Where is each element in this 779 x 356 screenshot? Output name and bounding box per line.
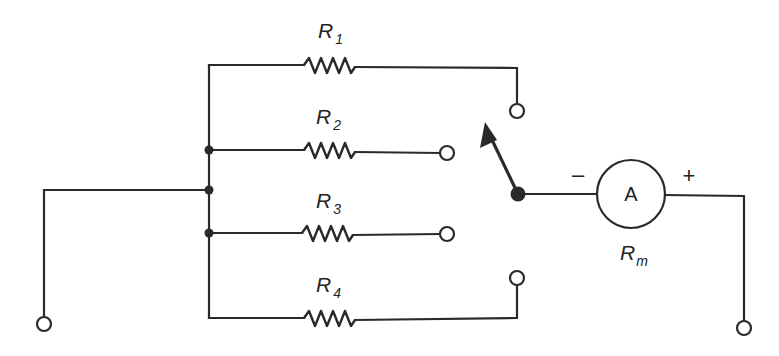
label-r1: R1	[318, 19, 343, 47]
resistor-r2-branch: R2	[209, 105, 454, 160]
resistor-r2-icon	[304, 143, 355, 158]
resistor-r1-branch: R1	[209, 19, 524, 118]
label-r4: R4	[316, 273, 341, 301]
resistor-r3-branch: R3	[209, 189, 454, 241]
resistor-r3-icon	[302, 226, 353, 241]
switch-contact-r3-icon	[440, 227, 454, 241]
junction-dot-icon	[205, 186, 214, 195]
rotary-switch[interactable]	[480, 122, 526, 202]
label-rm: Rm	[620, 241, 648, 269]
switch-contact-r4-icon	[510, 271, 524, 285]
label-r3: R3	[316, 189, 341, 217]
resistor-r4-icon	[304, 311, 355, 326]
positive-sign: +	[683, 163, 696, 188]
ammeter-symbol: A	[624, 183, 638, 205]
circuit-diagram: R1 R2 R3 R4 A – + Rm	[0, 0, 779, 356]
resistor-r1-icon	[304, 58, 355, 73]
switch-contact-r2-icon	[440, 146, 454, 160]
negative-sign: –	[572, 162, 585, 187]
ammeter: A – + Rm	[572, 160, 696, 269]
left-input-lead	[37, 190, 209, 331]
left-terminal-icon	[37, 317, 51, 331]
resistor-r4-branch: R4	[209, 271, 524, 326]
right-terminal-icon	[737, 321, 751, 335]
label-r2: R2	[316, 105, 341, 133]
switch-pointer	[493, 142, 518, 194]
right-output-lead	[665, 195, 751, 335]
switch-contact-r1-icon	[510, 104, 524, 118]
